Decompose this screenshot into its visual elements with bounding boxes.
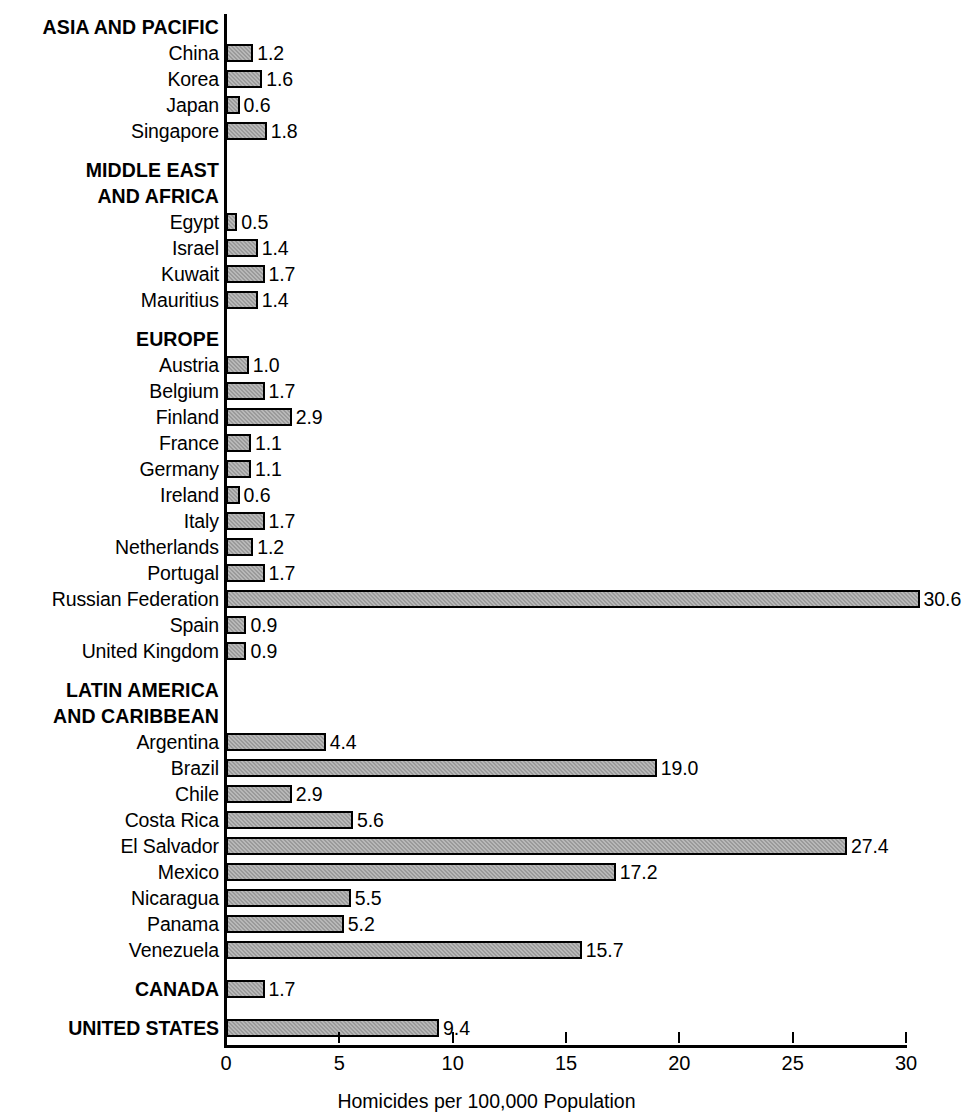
bar-value-label: 30.6 [924,587,962,611]
bar-row: Venezuela15.7 [0,937,973,963]
x-axis-tick-label: 20 [649,1052,709,1075]
bar-category-label: France [159,430,226,456]
bar [226,239,258,257]
bar [226,291,258,309]
bar-row: Egypt0.5 [0,209,973,235]
bar-value-label: 1.0 [253,353,280,377]
bar-row: El Salvador27.4 [0,833,973,859]
bar-value-label: 15.7 [586,938,624,962]
bar-category-label: Portugal [147,560,226,586]
bar-value-label: 1.7 [269,561,296,585]
bar [226,590,920,608]
bar-value-label: 1.8 [271,119,298,143]
bar-category-label: Brazil [171,755,226,781]
bar-value-label: 0.6 [244,483,271,507]
bar-value-label: 1.7 [269,262,296,286]
bar [226,486,240,504]
bar-category-label: CANADA [135,976,226,1002]
bar-category-label: Italy [184,508,226,534]
bar [226,96,240,114]
bar [226,564,265,582]
section-heading-row: ASIA AND PACIFIC [0,14,973,40]
bar-category-label: El Salvador [120,833,226,859]
bar [226,863,616,881]
bar-value-label: 1.4 [262,236,289,260]
bar-category-label: Nicaragua [131,885,226,911]
bar-value-label: 2.9 [296,405,323,429]
bar-value-label: 0.6 [244,93,271,117]
bar-row: Panama5.2 [0,911,973,937]
bar-category-label: Israel [172,235,226,261]
bar-row: Belgium1.7 [0,378,973,404]
bar-value-label: 1.1 [255,457,282,481]
bar-row: France1.1 [0,430,973,456]
bar-row: China1.2 [0,40,973,66]
bar [226,915,344,933]
bar [226,616,246,634]
x-axis-tick [565,1032,567,1043]
bar [226,434,251,452]
bar [226,889,351,907]
bar-value-label: 1.2 [257,535,284,559]
bar [226,642,246,660]
bar-category-label: Japan [166,92,226,118]
section-heading-label: AND CARIBBEAN [53,703,226,729]
bar [226,538,253,556]
bar-row: Spain0.9 [0,612,973,638]
bar-row: Brazil19.0 [0,755,973,781]
bar [226,811,353,829]
bar-row: Costa Rica5.6 [0,807,973,833]
bar-row: Austria1.0 [0,352,973,378]
bar [226,785,292,803]
bar-row: Korea1.6 [0,66,973,92]
bar-value-label: 1.1 [255,431,282,455]
bar-value-label: 0.9 [250,639,277,663]
bar-value-label: 17.2 [620,860,658,884]
bar [226,759,657,777]
bar [226,980,265,998]
bar-row: Kuwait1.7 [0,261,973,287]
bar-row: Israel1.4 [0,235,973,261]
bar-row: Mexico17.2 [0,859,973,885]
x-axis-tick-label: 30 [876,1052,936,1075]
bar-row: Germany1.1 [0,456,973,482]
bar-value-label: 9.4 [443,1016,470,1040]
bar-category-label: Germany [140,456,227,482]
bar-category-label: Belgium [149,378,226,404]
x-axis-title: Homicides per 100,000 Population [0,1090,973,1113]
x-axis-tick-label: 10 [423,1052,483,1075]
bar-category-label: UNITED STATES [68,1015,226,1041]
x-axis-tick-label: 25 [763,1052,823,1075]
bar-value-label: 2.9 [296,782,323,806]
bar-value-label: 5.5 [355,886,382,910]
bar-row: Russian Federation30.6 [0,586,973,612]
section-heading-label: AND AFRICA [97,183,226,209]
bar [226,213,237,231]
bar-value-label: 1.6 [266,67,293,91]
section-heading-row: LATIN AMERICA [0,677,973,703]
x-axis-tick [225,1032,227,1043]
bar-row: Portugal1.7 [0,560,973,586]
bar-category-label: Costa Rica [125,807,226,833]
bar-category-label: Korea [167,66,226,92]
bar-row: Chile2.9 [0,781,973,807]
section-heading-row: MIDDLE EAST [0,157,973,183]
bar-row: Mauritius1.4 [0,287,973,313]
bar-category-label: Panama [147,911,226,937]
bar-row: Singapore1.8 [0,118,973,144]
bar-category-label: Argentina [136,729,226,755]
bar [226,1019,439,1037]
section-heading-label: EUROPE [136,326,226,352]
bar-row: Finland2.9 [0,404,973,430]
bar [226,356,249,374]
bar-row: Ireland0.6 [0,482,973,508]
section-heading-row: AND CARIBBEAN [0,703,973,729]
bar [226,265,265,283]
bar-value-label: 0.9 [250,613,277,637]
section-heading-label: ASIA AND PACIFIC [43,14,226,40]
x-axis-tick-label: 15 [536,1052,596,1075]
bar [226,460,251,478]
x-axis-line [224,1045,907,1048]
section-heading-label: MIDDLE EAST [86,157,226,183]
bar-value-label: 4.4 [330,730,357,754]
